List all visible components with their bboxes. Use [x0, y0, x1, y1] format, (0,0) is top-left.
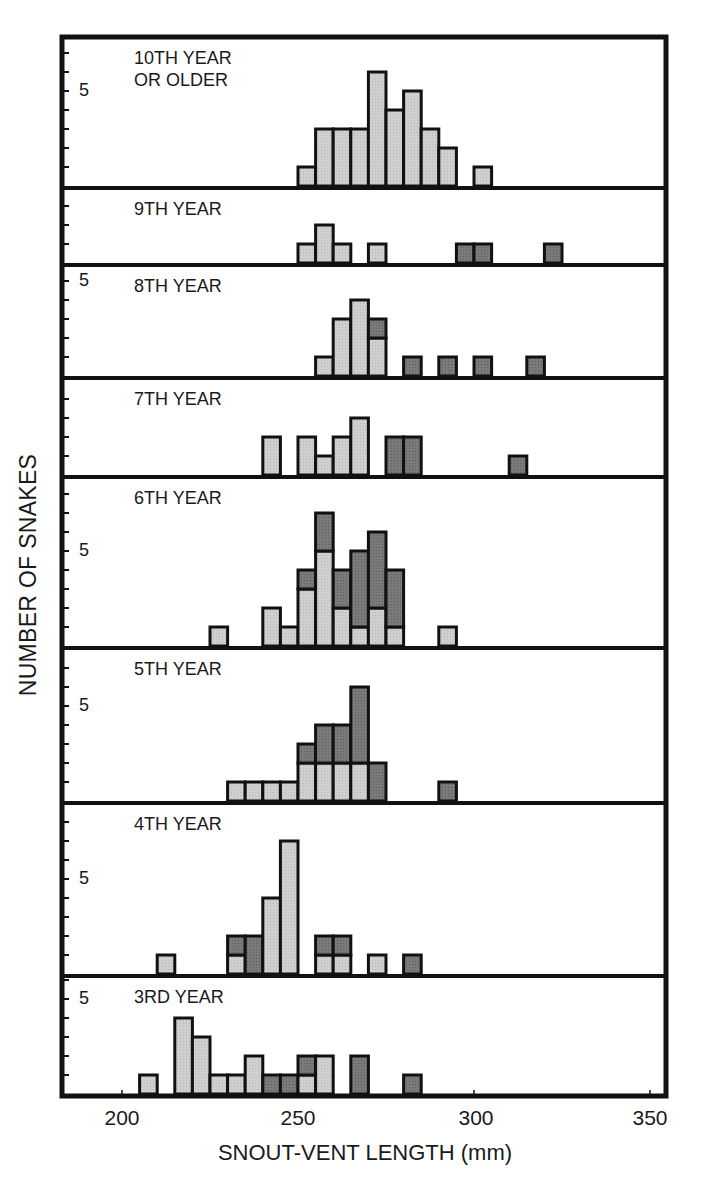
bar-dark — [351, 687, 369, 763]
y-axis-title: NUMBER OF SNAKES — [15, 454, 42, 697]
panel-label-5: 6TH YEAR — [134, 487, 222, 509]
bar-light — [175, 1018, 193, 1094]
bar-light — [316, 357, 334, 376]
panel-8 — [62, 980, 421, 1094]
bar-light — [298, 589, 316, 646]
bar-light — [316, 955, 334, 974]
bar-light — [228, 1075, 246, 1094]
bar-light — [298, 244, 316, 263]
y-tick-label-5: 5 — [79, 868, 89, 889]
bar-light — [280, 841, 298, 974]
bar-light — [298, 763, 316, 801]
bar-dark — [386, 570, 404, 627]
bar-light — [280, 627, 298, 646]
panel-6 — [62, 668, 456, 801]
bar-dark — [316, 936, 334, 955]
bar-light — [280, 782, 298, 801]
bar-light — [245, 1056, 263, 1094]
bar-dark — [263, 1075, 281, 1094]
bar-dark — [527, 357, 545, 376]
bar-light — [368, 608, 386, 646]
bar-light — [351, 129, 369, 186]
bar-light — [192, 1037, 210, 1094]
bar-light — [386, 627, 404, 646]
bar-dark — [351, 551, 369, 627]
bar-light — [351, 418, 369, 475]
bar-dark — [439, 782, 457, 801]
bar-dark — [316, 725, 334, 763]
bar-light — [333, 319, 351, 376]
x-tick-250: 250 — [280, 1106, 315, 1130]
bar-light — [333, 955, 351, 974]
bar-dark — [351, 1056, 369, 1094]
bar-light — [333, 763, 351, 801]
bar-dark — [404, 1075, 422, 1094]
y-tick-label-5: 5 — [79, 695, 89, 716]
bar-light — [333, 244, 351, 263]
histogram-chart — [0, 0, 703, 1191]
y-tick-label-5: 5 — [79, 80, 89, 101]
bar-light — [351, 300, 369, 376]
bar-light — [368, 338, 386, 376]
bar-light — [386, 110, 404, 186]
bar-dark — [245, 936, 263, 974]
panel-label-2: 9TH YEAR — [134, 198, 222, 220]
panel-label-3: 8TH YEAR — [134, 275, 222, 297]
bar-dark — [404, 437, 422, 475]
bar-light — [228, 955, 246, 974]
bar-light — [316, 763, 334, 801]
bar-light — [263, 608, 281, 646]
bar-light — [316, 551, 334, 646]
bar-light — [157, 955, 175, 974]
bar-dark — [298, 744, 316, 763]
bar-light — [351, 763, 369, 801]
bar-light — [298, 437, 316, 475]
bar-light — [228, 782, 246, 801]
panel-7 — [62, 822, 421, 974]
bar-light — [210, 627, 228, 646]
bar-light — [316, 225, 334, 263]
bar-dark — [439, 357, 457, 376]
y-axis-label: NUMBER OF SNAKES — [8, 0, 48, 1191]
panel-label-6: 5TH YEAR — [134, 658, 222, 680]
bar-light — [333, 437, 351, 475]
bar-light — [368, 955, 386, 974]
bar-light — [421, 129, 439, 186]
bar-light — [474, 167, 492, 186]
bar-dark — [280, 1075, 298, 1094]
bar-dark — [298, 570, 316, 589]
panel-label-4: 7TH YEAR — [134, 388, 222, 410]
bar-dark — [386, 437, 404, 475]
bar-light — [245, 782, 263, 801]
bar-dark — [368, 319, 386, 338]
bar-light — [298, 167, 316, 186]
panel-label-1: 10TH YEAR OR OLDER — [134, 47, 232, 91]
panel-label-8: 3RD YEAR — [134, 986, 224, 1008]
panel-1 — [62, 53, 492, 186]
bar-light — [404, 91, 422, 186]
bar-dark — [368, 532, 386, 608]
panel-label-7: 4TH YEAR — [134, 813, 222, 835]
x-tick-200: 200 — [104, 1106, 139, 1130]
bar-dark — [298, 1056, 316, 1075]
bar-light — [298, 1075, 316, 1094]
bar-light — [333, 129, 351, 186]
panel-5 — [62, 494, 456, 646]
bar-dark — [333, 725, 351, 763]
bar-dark — [228, 936, 246, 955]
bar-light — [439, 148, 457, 186]
bar-dark — [404, 955, 422, 974]
bar-dark — [456, 244, 474, 263]
bar-dark — [333, 570, 351, 608]
bar-dark — [368, 763, 386, 801]
bar-light — [368, 244, 386, 263]
bar-light — [263, 437, 281, 475]
panel-4 — [62, 399, 527, 475]
bar-light — [316, 129, 334, 186]
x-tick-350: 350 — [632, 1106, 667, 1130]
bar-dark — [509, 456, 527, 475]
bar-light — [263, 898, 281, 974]
bar-dark — [333, 936, 351, 955]
bar-light — [333, 608, 351, 646]
bar-light — [263, 782, 281, 801]
